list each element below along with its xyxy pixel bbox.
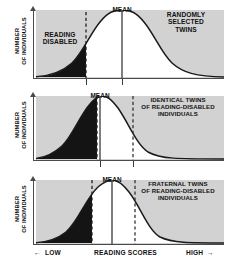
x-tick-reference-panel-2 <box>133 161 134 167</box>
group-label-line3-panel-1: TWINS <box>175 26 197 33</box>
mean-label-panel-2: MEAN <box>80 92 120 99</box>
y-axis-label-panel-3: NUMBER OF INDIVIDUALS <box>14 178 27 240</box>
y-axis-label-line2: OF INDIVIDUALS <box>21 101 27 148</box>
x-axis-left-arrow: ← <box>34 249 41 256</box>
x-tick-mean-panel-2 <box>100 161 101 167</box>
group-label-line2-panel-1: SELECTED <box>168 18 204 25</box>
mean-label-panel-3: MEAN <box>92 176 132 183</box>
panel-identical-twins: NUMBER OF INDIVIDUALS <box>0 86 227 170</box>
y-axis-label-panel-2: NUMBER OF INDIVIDUALS <box>14 94 27 156</box>
x-axis-line-panel-2 <box>33 160 224 161</box>
y-axis-line-panel-2 <box>33 96 34 160</box>
y-axis-label-line1: NUMBER <box>14 28 20 54</box>
x-axis-legend-row: ← LOW READING SCORES HIGH → <box>0 248 227 261</box>
group-label-line1-panel-1: RANDOMLY <box>167 11 205 18</box>
group-label-panel-2: IDENTICAL TWINS OF READING-DISABLED INDI… <box>133 97 223 117</box>
y-axis-label-panel-1: NUMBER OF INDIVIDUALS <box>14 10 27 72</box>
panel-fraternal-twins: NUMBER OF INDIVIDUALS <box>0 170 227 261</box>
mean-label-text-panel-1: MEAN <box>112 6 131 13</box>
y-axis-line-panel-1 <box>33 10 34 78</box>
group-label-panel-3: FRATERNAL TWINS OF READING-DISABLED INDI… <box>133 181 223 201</box>
y-axis-label-line2: OF INDIVIDUALS <box>21 185 27 232</box>
mean-label-panel-1: MEAN <box>102 6 142 13</box>
x-axis-right-arrow: → <box>207 249 214 256</box>
group-label-line3-panel-3: INDIVIDUALS <box>158 194 198 201</box>
x-axis-left-label: LOW <box>45 249 61 256</box>
x-axis-line-panel-3 <box>33 244 224 245</box>
x-tick-cutoff-panel-1 <box>86 79 87 85</box>
reading-disabled-line1: READING <box>44 31 75 38</box>
group-label-panel-1: RANDOMLY SELECTED TWINS <box>152 11 220 33</box>
reading-disabled-label-panel-1: READING DISABLED <box>36 31 84 46</box>
x-axis-line-panel-1 <box>33 78 224 79</box>
x-tick-mean-panel-1 <box>122 79 123 85</box>
y-axis-label-line1: NUMBER <box>14 112 20 138</box>
panel-randomly-selected-twins: NUMBER OF INDIVIDUALS <box>0 0 227 86</box>
mean-label-text-panel-2: MEAN <box>90 92 109 99</box>
x-axis-right-label: HIGH <box>186 249 203 256</box>
reading-disabled-line2: DISABLED <box>43 38 78 45</box>
group-label-line3-panel-2: INDIVIDUALS <box>158 110 198 117</box>
figure-root: NUMBER OF INDIVIDUALS <box>0 0 227 261</box>
y-axis-label-line2: OF INDIVIDUALS <box>21 17 27 64</box>
y-axis-line-panel-3 <box>33 180 34 244</box>
y-axis-label-line1: NUMBER <box>14 196 20 222</box>
mean-label-text-panel-3: MEAN <box>102 176 121 183</box>
x-axis-center-label: READING SCORES <box>94 249 157 256</box>
